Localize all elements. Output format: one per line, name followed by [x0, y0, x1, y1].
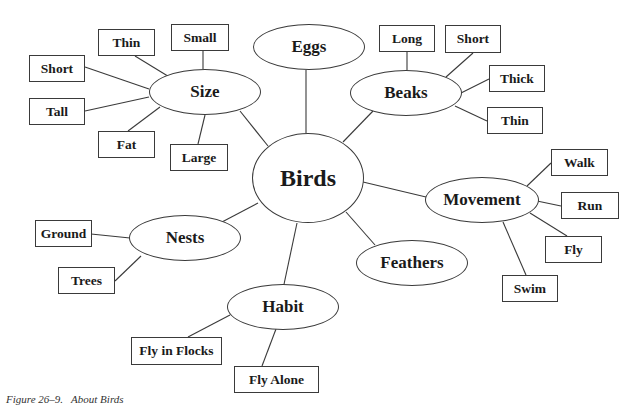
box-movement-fly: Fly — [545, 236, 602, 263]
box-size-thin: Thin — [98, 29, 155, 56]
box-label: Thin — [501, 113, 529, 129]
node-eggs: Eggs — [253, 24, 365, 70]
box-beaks-thin: Thin — [487, 107, 543, 134]
box-label: Walk — [564, 155, 595, 171]
node-label: Size — [190, 82, 219, 102]
box-beaks-short: Short — [445, 25, 501, 53]
box-nests-ground: Ground — [35, 220, 92, 247]
box-label: Fly — [564, 242, 583, 258]
box-label: Long — [392, 31, 422, 47]
box-label: Thick — [500, 71, 534, 87]
box-size-fat: Fat — [98, 131, 155, 158]
box-label: Fat — [117, 137, 137, 153]
box-size-short: Short — [29, 55, 85, 82]
box-label: Short — [457, 31, 489, 47]
box-beaks-long: Long — [379, 25, 435, 52]
node-label: Habit — [262, 297, 304, 317]
box-label: Swim — [514, 281, 546, 297]
box-label: Small — [183, 30, 216, 46]
node-birds: Birds — [252, 133, 364, 223]
box-label: Thin — [113, 35, 141, 51]
node-label: Eggs — [292, 37, 327, 57]
box-habit-alone: Fly Alone — [234, 366, 319, 393]
box-movement-walk: Walk — [551, 149, 608, 176]
node-feathers: Feathers — [356, 240, 468, 286]
box-habit-flocks: Fly in Flocks — [131, 337, 222, 365]
box-label: Ground — [41, 226, 87, 242]
box-movement-swim: Swim — [502, 275, 558, 302]
node-size: Size — [149, 69, 261, 115]
box-label: Fly in Flocks — [139, 343, 213, 359]
figure-caption: Figure 26–9. About Birds — [6, 393, 124, 405]
node-beaks: Beaks — [350, 70, 462, 116]
node-label: Feathers — [380, 253, 443, 273]
node-label: Birds — [280, 165, 336, 192]
node-habit: Habit — [227, 284, 339, 330]
box-beaks-thick: Thick — [489, 65, 545, 92]
node-nests: Nests — [129, 215, 241, 261]
node-label: Beaks — [384, 83, 427, 103]
box-label: Run — [578, 198, 603, 214]
box-nests-trees: Trees — [58, 267, 115, 294]
node-label: Nests — [166, 228, 205, 248]
box-label: Fly Alone — [249, 372, 304, 388]
box-label: Large — [182, 150, 217, 166]
node-label: Movement — [443, 190, 520, 210]
node-movement: Movement — [425, 177, 539, 223]
box-size-small: Small — [171, 24, 229, 51]
box-label: Trees — [71, 273, 102, 289]
box-label: Tall — [46, 104, 68, 120]
box-movement-run: Run — [561, 192, 619, 219]
box-label: Short — [41, 61, 73, 77]
box-size-tall: Tall — [29, 98, 85, 125]
box-size-large: Large — [170, 144, 228, 171]
